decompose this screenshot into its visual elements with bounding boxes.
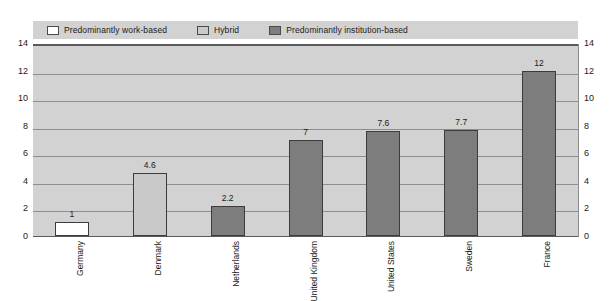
x-axis-label-slot: Netherlands [189,239,267,295]
bar-slot: 4.6 [111,46,189,236]
bar-value-label: 7.6 [377,119,389,128]
y-axis-tick-left-10: 10 [18,94,28,103]
bar-united-kingdom: 7 [289,140,323,237]
bar-value-label: 4.6 [144,161,156,170]
x-axis-label-slot: Germany [33,239,111,295]
y-axis-tick-right-14: 14 [584,39,594,48]
x-axis-label-united-kingdom: United Kingdom [310,241,319,301]
x-axis-label-sweden: Sweden [465,241,474,272]
y-axis-tick-left-14: 14 [18,39,28,48]
bar-slot: 12 [500,46,578,236]
y-axis-tick-left-6: 6 [23,149,28,158]
bar-value-label: 12 [534,59,543,68]
x-axis-label-denmark: Denmark [154,241,163,275]
x-axis-label-slot: United States [344,239,422,295]
x-axis-label-france: France [543,241,552,267]
bar-slot: 1 [33,46,111,236]
y-axis-tick-right-12: 12 [584,67,594,76]
legend-swatch-hybrid-icon [197,26,209,35]
bar-slot: 7.7 [422,46,500,236]
bar-value-label: 7.7 [455,118,467,127]
y-axis-tick-left-8: 8 [23,122,28,131]
x-axis-labels: GermanyDenmarkNetherlandsUnited KingdomU… [33,239,578,295]
legend-item-institution-based: Predominantly institution-based [269,26,408,35]
bar-france: 12 [522,71,556,236]
y-axis-tick-left-4: 4 [23,177,28,186]
plot-area: 14.62.277.67.712 [33,44,578,237]
bar-value-label: 7 [303,128,308,137]
bar-value-label: 1 [70,210,75,219]
y-axis-tick-left-12: 12 [18,67,28,76]
bar-united-states: 7.6 [366,131,400,236]
x-axis-label-slot: Sweden [422,239,500,295]
y-axis-tick-right-6: 6 [584,149,589,158]
y-axis-tick-left-2: 2 [23,204,28,213]
y-axis-tick-right-0: 0 [584,232,589,241]
y-axis-right-rail [578,44,579,237]
chart-legend: Predominantly work-based Hybrid Predomin… [33,21,578,39]
legend-label-hybrid: Hybrid [214,26,239,35]
legend-label-institution-based: Predominantly institution-based [286,26,408,35]
y-axis-tick-right-4: 4 [584,177,589,186]
y-axis-tick-right-2: 2 [584,204,589,213]
bar-germany: 1 [55,222,89,236]
x-axis-label-united-states: United States [387,241,396,292]
x-axis-label-slot: United Kingdom [267,239,345,295]
x-axis-label-slot: Denmark [111,239,189,295]
bar-series: 14.62.277.67.712 [33,46,578,236]
bar-slot: 7 [267,46,345,236]
legend-label-work-based: Predominantly work-based [64,26,167,35]
bar-sweden: 7.7 [444,130,478,236]
y-axis-tick-right-8: 8 [584,122,589,131]
legend-item-hybrid: Hybrid [197,26,239,35]
x-axis-label-netherlands: Netherlands [232,241,241,287]
bar-netherlands: 2.2 [211,206,245,236]
bar-value-label: 2.2 [222,194,234,203]
bar-slot: 2.2 [189,46,267,236]
y-axis-tick-left-0: 0 [23,232,28,241]
x-axis-label-slot: France [500,239,578,295]
bar-slot: 7.6 [344,46,422,236]
bar-denmark: 4.6 [133,173,167,236]
x-axis-label-germany: Germany [76,241,85,276]
y-axis-tick-right-10: 10 [584,94,594,103]
legend-swatch-institution-based-icon [269,26,281,35]
legend-swatch-work-based-icon [47,26,59,35]
legend-item-work-based: Predominantly work-based [47,26,167,35]
